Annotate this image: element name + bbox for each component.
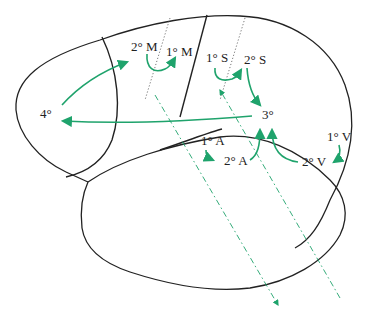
label-2M: 2° M: [131, 39, 158, 54]
brain-diagram: 4° 2° M 1° M 1° S 2° S 3° 1° A 2° A 1° V…: [0, 0, 367, 321]
label-1V: 1° V: [327, 129, 352, 144]
precentral-boundary: [66, 37, 117, 177]
arrow-1V-to-2V: [334, 145, 340, 162]
arrow-2S-to-3: [247, 68, 260, 105]
dorsal-dashdot-line: [155, 95, 278, 305]
label-3: 3°: [262, 107, 274, 122]
label-2V: 2° V: [302, 154, 327, 169]
label-1M: 1° M: [166, 44, 193, 59]
label-1A: 1° A: [201, 133, 225, 148]
arrow-1A-to-2A: [206, 150, 213, 160]
arrow-3-to-4: [63, 116, 252, 122]
label-1S: 1° S: [206, 50, 228, 65]
central-sulcus: [180, 15, 207, 117]
label-2S: 2° S: [244, 52, 266, 67]
label-4: 4°: [40, 106, 52, 121]
label-2A: 2° A: [224, 153, 248, 168]
motor-dotted-boundary: [145, 18, 170, 100]
ventral-dashdot-line: [220, 90, 340, 298]
arrow-2V-to-3: [272, 130, 298, 162]
